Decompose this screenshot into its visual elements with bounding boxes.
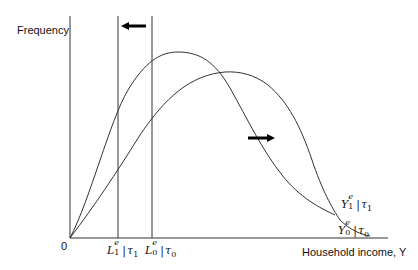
label-L1-sup: e — [114, 238, 119, 247]
label-Y0-sup: e — [345, 218, 350, 227]
label-Y1-sub: 1 — [348, 202, 353, 211]
origin-label: 0 — [61, 240, 67, 252]
x-axis-label: Household income, Y — [302, 246, 406, 258]
right-arrow-icon — [248, 134, 275, 142]
label-L0: Le0|τ0 — [145, 244, 176, 257]
label-Y0-sub: 0 — [345, 228, 350, 237]
label-L1-sub: 1 — [114, 248, 119, 257]
label-Y1-base: Y — [341, 198, 348, 211]
label-L0-base: L — [145, 244, 152, 257]
label-L0-sup: e — [152, 238, 157, 247]
label-L0-sub: 0 — [152, 248, 157, 257]
label-Y0-cond-sub: 0 — [364, 230, 369, 239]
y-axis-label: Frequency — [17, 24, 69, 36]
label-L0-cond-sub: 0 — [171, 250, 176, 259]
label-L1: Le1|τ1 — [107, 244, 138, 257]
label-Y1: Ye1|τ1 — [341, 198, 372, 211]
label-Y1-cond-sub: 1 — [367, 204, 372, 213]
label-Y0: Ye0|τ0 — [338, 224, 369, 237]
curve-Y1 — [70, 52, 335, 238]
label-L1-cond-sub: 1 — [133, 250, 138, 259]
label-Y1-sup: e — [348, 192, 353, 201]
label-Y0-base: Y — [338, 224, 345, 237]
curve-Y0 — [70, 72, 370, 238]
label-L1-base: L — [107, 244, 114, 257]
income-distribution-diagram: Frequency Household income, Y 0 Le1|τ1 L… — [0, 0, 418, 270]
left-arrow-icon — [121, 22, 146, 30]
